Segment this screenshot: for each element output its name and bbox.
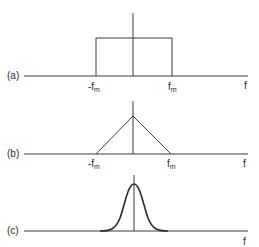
panel-c: (c) f	[7, 175, 248, 247]
panel-c-axis-label-f: f	[243, 236, 246, 247]
panel-a-axis-label-f: f	[244, 80, 247, 91]
panel-a: (a) -fm fm f	[7, 13, 248, 93]
panel-a-rectangle-spectrum	[96, 38, 172, 76]
spectrum-diagram: (a) -fm fm f (b) -fm fm f (c) f	[0, 0, 259, 247]
panel-a-label: (a)	[7, 70, 19, 81]
panel-b-label: (b)	[7, 148, 19, 159]
panel-a-tick-neg-fm: -fm	[88, 81, 100, 93]
panel-b-axis-label-f: f	[243, 158, 246, 169]
panel-c-label: (c)	[7, 225, 19, 236]
panel-b-tick-fm: fm	[167, 158, 176, 170]
panel-a-tick-fm: fm	[168, 81, 177, 93]
panel-b-tick-neg-fm: -fm	[88, 158, 100, 170]
panel-b: (b) -fm fm f	[7, 101, 248, 170]
